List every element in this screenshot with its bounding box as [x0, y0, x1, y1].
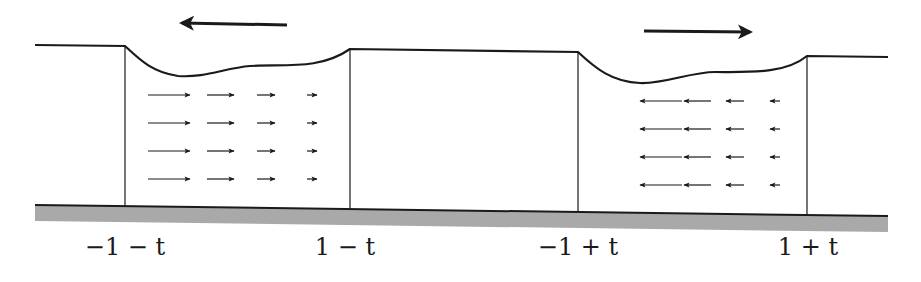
- label-left-inner: 1 − t: [315, 233, 375, 261]
- label-right-outer: 1 + t: [778, 233, 838, 261]
- right-motion-arrow-icon: [644, 31, 750, 32]
- label-left-outer: −1 − t: [85, 233, 165, 261]
- label-right-inner: −1 + t: [538, 233, 618, 261]
- velocity-field: [148, 95, 780, 185]
- left-motion-arrow-icon: [182, 23, 287, 25]
- water-surface: [35, 45, 888, 83]
- ground-bed: [35, 205, 888, 232]
